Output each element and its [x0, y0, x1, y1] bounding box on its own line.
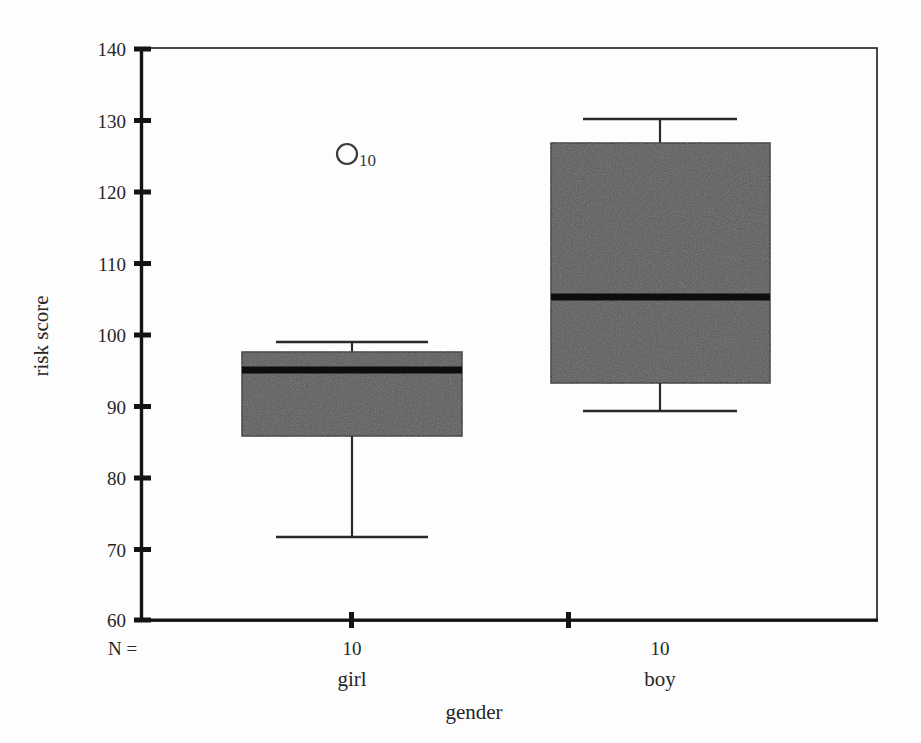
- x-category-label-boy: boy: [644, 667, 676, 691]
- n-value-boy: 10: [651, 638, 670, 659]
- y-tick-label-70: 70: [107, 540, 126, 561]
- y-tick-label-80: 80: [107, 468, 126, 489]
- chart-canvas: 140 130 120 110 100 90 80 70 60 risk sco…: [0, 0, 921, 743]
- y-tick-label-100: 100: [98, 325, 127, 346]
- outlier-label: 10: [359, 151, 376, 170]
- boxplot-figure: 140 130 120 110 100 90 80 70 60 risk sco…: [0, 0, 921, 743]
- x-axis-title: gender: [445, 700, 502, 724]
- box-boy[interactable]: [551, 119, 770, 411]
- boy-box-body: [551, 143, 770, 383]
- y-tick-label-90: 90: [107, 397, 126, 418]
- y-tick-label-120: 120: [98, 182, 127, 203]
- girl-box-body: [242, 352, 462, 436]
- y-tick-label-110: 110: [98, 254, 126, 275]
- x-category-label-girl: girl: [337, 667, 366, 691]
- n-value-girl: 10: [343, 638, 362, 659]
- y-tick-label-130: 130: [98, 111, 127, 132]
- y-axis-title: risk score: [29, 295, 53, 376]
- y-tick-label-60: 60: [107, 610, 126, 631]
- y-tick-label-140: 140: [98, 39, 127, 60]
- n-prefix-label: N =: [108, 638, 137, 659]
